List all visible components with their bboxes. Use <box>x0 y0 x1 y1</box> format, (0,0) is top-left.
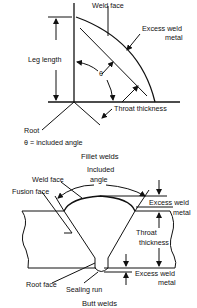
groove-wall-left <box>64 211 95 258</box>
butt-weld-figure: Included angle Weld face Fusion face Exc… <box>12 165 191 308</box>
left-plate-break <box>22 211 29 268</box>
label-weld-face: Weld face <box>92 1 124 10</box>
groove-wall-right <box>108 211 135 258</box>
groove-ext-right <box>135 190 149 211</box>
label-leg-length: Leg length <box>28 55 62 64</box>
label-excess-top-2: metal <box>173 208 191 217</box>
root-leader <box>42 102 74 130</box>
fillet-weld-figure: Weld face Excess weld metal Leg length θ… <box>24 1 183 161</box>
excess-weld-arrow <box>127 34 140 50</box>
right-plate-break <box>170 211 176 268</box>
caption-fillet-welds: Fillet welds <box>81 152 119 161</box>
sealing-run-leader <box>84 272 98 283</box>
label-fusion-face: Fusion face <box>12 187 49 196</box>
weld-diagram: Weld face Excess weld metal Leg length θ… <box>0 0 197 308</box>
label-sealing-run: Sealing run <box>66 285 102 294</box>
root-diagonal-line <box>74 102 100 125</box>
label-excess-top-1: Excess weld <box>149 198 189 207</box>
label-excess-bottom-1: Excess weld <box>135 269 175 278</box>
label-excess-weld-2: metal <box>165 33 183 42</box>
label-excess-bottom-2: metal <box>158 278 176 287</box>
throat-arrow-up-1 <box>102 62 113 74</box>
weld-face-leader <box>61 182 82 198</box>
theta-arrow-left <box>77 62 98 71</box>
label-throat-thickness: Throat thickness <box>114 104 167 113</box>
label-included-angle-legend: θ = included angle <box>24 138 83 147</box>
throat-arrow-up-2 <box>122 86 138 102</box>
label-angle: angle <box>90 175 108 184</box>
label-root: Root <box>24 126 39 135</box>
label-throat: Throat <box>136 228 157 237</box>
label-included: Included <box>87 165 114 174</box>
included-angle-arrow-right <box>106 185 145 196</box>
fusion-face-leader <box>42 192 72 233</box>
label-root-face: Root face <box>26 280 57 289</box>
label-excess-weld-1: Excess weld <box>142 24 182 33</box>
label-theta: θ <box>99 69 103 78</box>
label-thickness: thickness <box>139 238 169 247</box>
groove-ext-left <box>55 196 64 211</box>
throat-arrow-lower <box>102 109 112 118</box>
caption-butt-welds: Butt welds <box>82 299 117 308</box>
included-angle-arrow-left <box>58 185 94 198</box>
sealing-run-bead <box>95 268 108 272</box>
weld-cap-curve <box>64 196 135 211</box>
theta-arrow-down <box>107 80 113 100</box>
label-weld-face-butt: Weld face <box>32 175 64 184</box>
